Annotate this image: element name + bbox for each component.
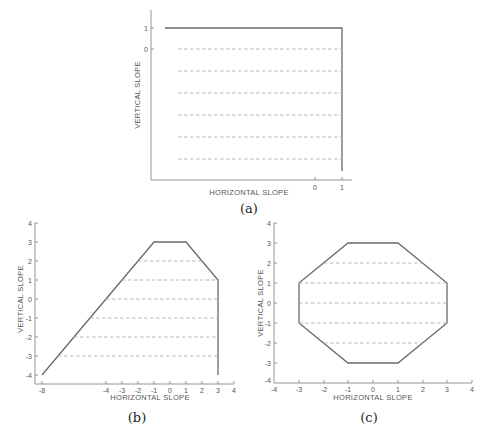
plot-c-ytick-label: 2 bbox=[267, 260, 271, 267]
plot-b-ytick-label: 3 bbox=[28, 239, 32, 246]
plot-a-ytick-label: 0 bbox=[144, 46, 148, 53]
plot-c-ytick-label: 1 bbox=[267, 280, 271, 287]
figure: 1 0 0 1 VERTICAL SLOPE HORIZONTAL SLOPE … bbox=[0, 0, 490, 432]
plot-a-xlabel: HORIZONTAL SLOPE bbox=[209, 188, 288, 197]
plot-b-ytick-label: 1 bbox=[28, 277, 32, 284]
plot-a-caption: (a) bbox=[240, 201, 258, 216]
plot-a-ylabel: VERTICAL SLOPE bbox=[133, 61, 142, 129]
plot-c-ytick-label: 4 bbox=[267, 220, 271, 227]
plot-c-xtick-label: 4 bbox=[470, 386, 474, 393]
plot-c-xtick-label: -1 bbox=[345, 386, 351, 393]
plot-a-xtick-label: 1 bbox=[340, 184, 344, 191]
plot-c-xtick-label: 0 bbox=[371, 386, 375, 393]
plot-b-xtick-label: 3 bbox=[216, 387, 220, 394]
plot-b-xtick-label: 2 bbox=[200, 387, 204, 394]
plot-c-ylabel: VERTICAL SLOPE bbox=[256, 269, 265, 337]
plot-a-ytick-label: 1 bbox=[144, 25, 148, 32]
plot-c-ytick-label: -4 bbox=[265, 377, 271, 384]
plot-b-xlabel: HORIZONTAL SLOPE bbox=[110, 393, 189, 402]
plot-b-dashed-lines bbox=[58, 261, 218, 356]
plot-c-ytick-label: 0 bbox=[267, 300, 271, 307]
plot-b-ytick-label: 4 bbox=[28, 220, 32, 227]
plot-c-yticks bbox=[274, 223, 277, 363]
plot-b-ytick-label: -2 bbox=[26, 334, 32, 341]
plot-b-caption: (b) bbox=[128, 410, 146, 425]
plot-c-ytick-label: -1 bbox=[265, 320, 271, 327]
plot-c-xtick-label: -2 bbox=[321, 386, 327, 393]
plot-c-xtick-label: 2 bbox=[421, 386, 425, 393]
plot-c-ytick-label: 3 bbox=[267, 240, 271, 247]
plot-b-xtick-label: 4 bbox=[232, 387, 236, 394]
plot-a-dashed-lines bbox=[178, 49, 342, 159]
plot-c-xlabel: HORIZONTAL SLOPE bbox=[333, 393, 412, 402]
plot-c: 4 3 2 1 0 -1 -2 -3 -4 -4 -3 -2 -1 0 1 2 … bbox=[256, 220, 474, 425]
plot-c-xtick-label: -4 bbox=[271, 386, 277, 393]
plot-b-xtick-label: -8 bbox=[39, 387, 45, 394]
plot-c-ytick-label: -2 bbox=[265, 340, 271, 347]
plot-b: 4 3 2 1 0 -1 -2 -3 -4 -8 -4 -3 -2 -1 0 1… bbox=[16, 220, 236, 425]
plot-c-caption: (c) bbox=[360, 410, 377, 425]
plot-b-boundary bbox=[42, 242, 218, 375]
plot-b-ytick-label: -1 bbox=[26, 315, 32, 322]
plot-c-dashed-lines bbox=[299, 263, 447, 343]
plot-c-ytick-label: -3 bbox=[265, 360, 271, 367]
plot-b-ytick-label: -3 bbox=[26, 353, 32, 360]
plot-b-xtick-label: -4 bbox=[103, 387, 109, 394]
plot-b-ylabel: VERTICAL SLOPE bbox=[16, 265, 25, 333]
plot-b-ytick-label: 2 bbox=[28, 258, 32, 265]
plot-b-ytick-label: -4 bbox=[26, 372, 32, 379]
plot-c-xtick-label: 3 bbox=[445, 386, 449, 393]
plot-a: 1 0 0 1 VERTICAL SLOPE HORIZONTAL SLOPE … bbox=[133, 10, 352, 216]
plot-a-xtick-label: 0 bbox=[313, 184, 317, 191]
plot-c-xtick-label: 1 bbox=[396, 386, 400, 393]
plot-c-xtick-label: -3 bbox=[296, 386, 302, 393]
plot-b-ytick-label: 0 bbox=[28, 296, 32, 303]
